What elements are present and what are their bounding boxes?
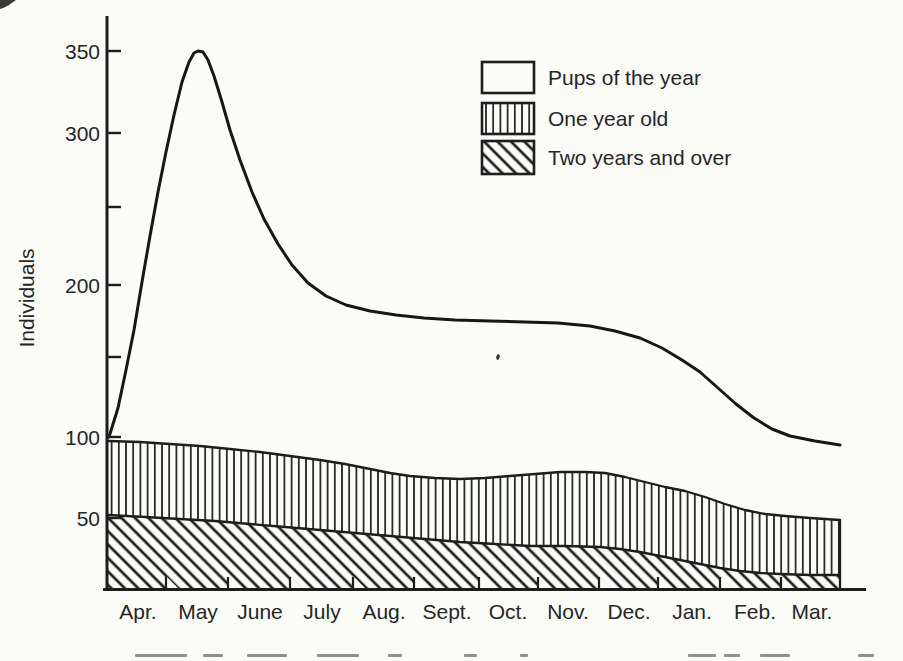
legend: Pups of the year One year old Two years … [482,62,731,174]
month-sept: Sept. [422,600,471,623]
month-may: May [178,600,218,623]
population-chart: 350 300 200 100 50 Individuals Apr. May … [0,0,903,661]
month-july: July [303,600,341,623]
ytick-100: 100 [65,426,100,449]
scan-speck [496,354,501,360]
legend-swatch-one-year [482,103,534,134]
ytick-300: 300 [65,122,100,145]
ytick-200: 200 [65,274,100,297]
month-oct: Oct. [489,600,528,623]
ytick-350: 350 [65,40,100,63]
month-aug: Aug. [362,600,405,623]
y-axis-title: Individuals [15,248,38,347]
month-mar: Mar. [792,600,833,623]
scan-corner-smudge [0,0,16,9]
y-axis-tick-labels: 350 300 200 100 50 [65,40,100,530]
month-apr: Apr. [119,600,156,623]
total-population-curve [109,51,840,445]
month-dec: Dec. [607,600,650,623]
cut-off-caption-fragments [0,650,903,661]
legend-label-one-year: One year old [548,107,668,130]
month-jan: Jan. [672,600,712,623]
legend-swatch-two-years [482,141,534,174]
legend-swatch-pups [482,62,534,93]
month-feb: Feb. [734,600,776,623]
legend-label-pups: Pups of the year [548,66,701,89]
month-nov: Nov. [547,600,589,623]
month-june: June [237,600,283,623]
ytick-50: 50 [77,507,100,530]
x-axis-month-labels: Apr. May June July Aug. Sept. Oct. Nov. … [119,600,832,623]
legend-label-two-years: Two years and over [548,146,731,169]
